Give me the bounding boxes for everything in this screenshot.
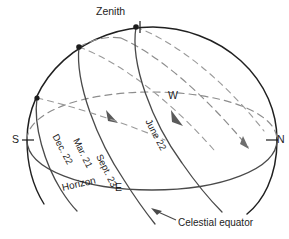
label-south: S [12, 134, 19, 145]
label-celestial-equator: Celestial equator [178, 218, 253, 228]
sun-point-june22-icon [133, 24, 139, 30]
diagram-canvas [0, 0, 289, 239]
label-north: N [277, 134, 285, 145]
celestial-sphere-diagram: Zenith S N E W Dec. 22 Mar. 21 Sept. 23 … [0, 0, 289, 239]
label-west: W [168, 90, 178, 101]
sun-path-equinox-arc-icon [79, 47, 155, 224]
sun-point-dec22-icon [34, 95, 39, 100]
label-zenith: Zenith [96, 6, 125, 17]
sun-path-june22-far-arc-icon [136, 27, 264, 131]
sun-point-equinox-icon [76, 44, 82, 50]
direction-arrow-june22-icon [171, 110, 183, 126]
direction-arrow-equator-icon [240, 136, 249, 149]
celestial-equator-leader-arrow-icon [151, 208, 162, 215]
sphere-outline-right-icon [247, 140, 277, 214]
celestial-equator-upper-dash-icon [79, 37, 121, 47]
